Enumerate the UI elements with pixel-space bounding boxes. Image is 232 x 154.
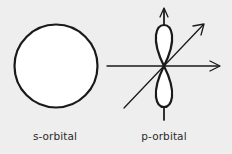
s-orbital-figure bbox=[15, 25, 98, 108]
s-orbital-sphere bbox=[15, 25, 98, 108]
s-orbital-label: s-orbital bbox=[15, 130, 95, 142]
p-orbital-label: p-orbital bbox=[124, 130, 204, 142]
p-orbital-figure bbox=[107, 8, 220, 120]
